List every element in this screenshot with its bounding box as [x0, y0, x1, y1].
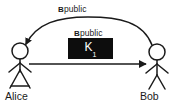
- session-key-subscript: 1: [93, 51, 97, 58]
- actor-alice-figure: [9, 43, 31, 88]
- session-key-symbol: K: [85, 40, 93, 54]
- alice-head-icon: [12, 43, 28, 59]
- bob-leg-left: [149, 75, 157, 89]
- bob-leg-right: [157, 75, 165, 89]
- bob-arm-left: [146, 64, 157, 73]
- bob-arm-right: [157, 64, 168, 73]
- curved-message-label-text: public: [64, 4, 87, 14]
- alice-arm-left: [9, 63, 20, 72]
- bob-head-icon: [149, 44, 165, 60]
- straight-message-label: Bpublic: [74, 29, 103, 38]
- session-key-label: K1: [85, 41, 97, 55]
- session-key-box: K1: [68, 38, 113, 59]
- actor-label-bob: Bob: [140, 91, 159, 102]
- straight-message-label-text: public: [80, 28, 103, 38]
- diagram-canvas: Bpublic Bpublic K1 Alice Bob: [0, 0, 177, 106]
- actor-bob-figure: [146, 44, 168, 89]
- curved-message-label: Bpublic: [58, 5, 87, 14]
- actor-label-alice: Alice: [5, 91, 28, 102]
